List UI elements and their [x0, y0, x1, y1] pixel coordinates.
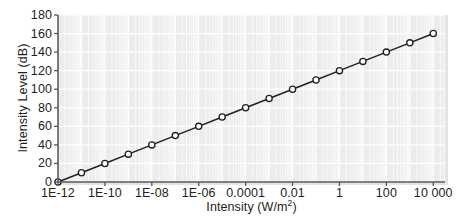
x-axis-tick-label: 100 — [376, 186, 397, 200]
x-axis-tick-label: 1E-12 — [41, 186, 75, 200]
x-axis-tick-label: 0.01 — [280, 186, 305, 200]
intensity-level-chart: 020406080100120140160180 1E-121E-101E-08… — [0, 0, 459, 222]
x-axis-tick-label: 1 — [336, 186, 343, 200]
x-axis-tick-label: 10 000 — [414, 186, 453, 200]
x-axis-tick-label: 0.0001 — [226, 186, 265, 200]
x-axis-tick-label: 1E-08 — [135, 186, 169, 200]
x-axis-tick-labels: 1E-121E-101E-081E-060.00010.01110010 000 — [0, 0, 459, 222]
x-axis-tick-label: 1E-06 — [182, 186, 216, 200]
x-axis-tick-label: 1E-10 — [88, 186, 122, 200]
